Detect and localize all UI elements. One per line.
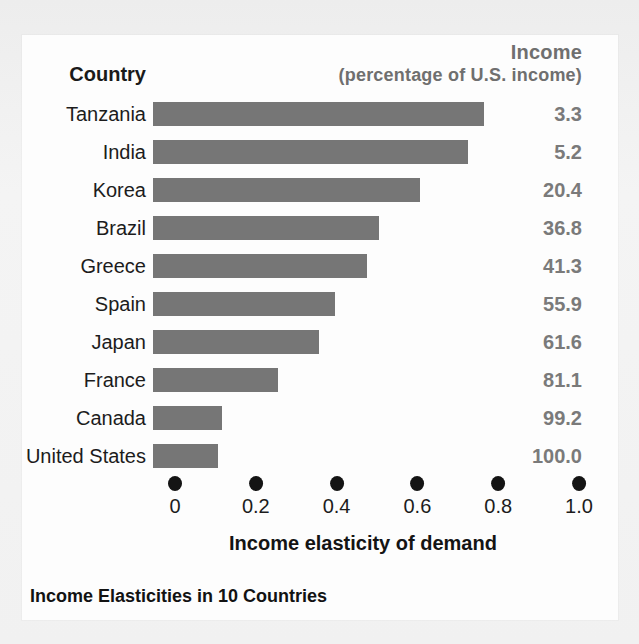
bar-track	[153, 133, 618, 171]
country-label: India	[22, 133, 146, 171]
country-label: Tanzania	[22, 95, 146, 133]
bar	[153, 292, 335, 316]
country-label: Korea	[22, 171, 146, 209]
income-percentage-value: 61.6	[543, 323, 582, 361]
x-axis-tick-label: 0	[168, 495, 182, 518]
x-axis-tick-label: 0.2	[242, 495, 270, 518]
tick-dot-icon	[249, 476, 263, 491]
bar	[153, 178, 420, 202]
country-label: Greece	[22, 247, 146, 285]
chart-row: Tanzania3.3	[22, 95, 618, 133]
bar	[153, 330, 319, 354]
country-label: Spain	[22, 285, 146, 323]
x-axis-tick-label: 0.6	[403, 495, 431, 518]
tick-dot-icon	[491, 476, 505, 491]
tick-dot-icon	[410, 476, 424, 491]
bar-rows: Tanzania3.3India5.2Korea20.4Brazil36.8Gr…	[22, 95, 618, 475]
bar-track	[153, 95, 618, 133]
x-axis-tick: 0.6	[403, 476, 431, 518]
bar	[153, 368, 278, 392]
bar	[153, 102, 484, 126]
chart-row: United States100.0	[22, 437, 618, 475]
chart-row: Brazil36.8	[22, 209, 618, 247]
income-percentage-value: 99.2	[543, 399, 582, 437]
chart-row: Korea20.4	[22, 171, 618, 209]
page-background: Income (percentage of U.S. income) Count…	[0, 0, 639, 644]
country-label: Canada	[22, 399, 146, 437]
tick-dot-icon	[168, 476, 182, 491]
country-label: United States	[22, 437, 146, 475]
x-axis-tick: 0	[168, 476, 182, 518]
bar	[153, 406, 222, 430]
x-axis-tick-label: 1.0	[565, 495, 593, 518]
chart-row: Spain55.9	[22, 285, 618, 323]
bar	[153, 444, 218, 468]
tick-dot-icon	[330, 476, 344, 491]
income-percentage-value: 20.4	[543, 171, 582, 209]
country-column-header: Country	[22, 63, 146, 86]
x-axis-tick-label: 0.8	[484, 495, 512, 518]
income-percentage-value: 3.3	[554, 95, 582, 133]
income-percentage-value: 100.0	[532, 437, 582, 475]
chart-row: Canada99.2	[22, 399, 618, 437]
income-percentage-value: 55.9	[543, 285, 582, 323]
chart-row: India5.2	[22, 133, 618, 171]
income-percentage-value: 41.3	[543, 247, 582, 285]
x-axis-title: Income elasticity of demand	[153, 532, 573, 555]
chart-row: Greece41.3	[22, 247, 618, 285]
x-axis-tick-label: 0.4	[323, 495, 351, 518]
country-label: Japan	[22, 323, 146, 361]
income-column-header: Income (percentage of U.S. income)	[339, 40, 582, 86]
income-percentage-value: 36.8	[543, 209, 582, 247]
chart-card: Income (percentage of U.S. income) Count…	[22, 35, 618, 620]
bar	[153, 216, 379, 240]
bar	[153, 254, 367, 278]
country-label: Brazil	[22, 209, 146, 247]
tick-dot-icon	[572, 476, 586, 491]
x-axis-tick: 0.4	[323, 476, 351, 518]
figure-title: Income Elasticities in 10 Countries	[30, 586, 327, 607]
country-label: France	[22, 361, 146, 399]
x-axis-tick: 0.8	[484, 476, 512, 518]
income-percentage-value: 81.1	[543, 361, 582, 399]
income-subheader-label: (percentage of U.S. income)	[339, 64, 582, 86]
income-percentage-value: 5.2	[554, 133, 582, 171]
chart-row: France81.1	[22, 361, 618, 399]
x-axis-tick: 0.2	[242, 476, 270, 518]
x-axis-tick: 1.0	[565, 476, 593, 518]
chart-row: Japan61.6	[22, 323, 618, 361]
bar	[153, 140, 468, 164]
x-axis: 00.20.40.60.81.0	[153, 476, 573, 530]
income-header-label: Income	[511, 41, 582, 63]
